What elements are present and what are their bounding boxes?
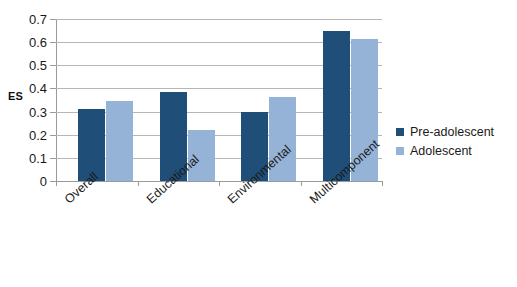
x-axis-tick bbox=[56, 181, 57, 186]
bar bbox=[106, 101, 133, 181]
legend-swatch-icon bbox=[396, 147, 404, 155]
bar-chart: ES 0.70.60.50.40.30.20.10 Pre-adolescent… bbox=[0, 0, 517, 287]
x-axis-tick bbox=[382, 181, 383, 186]
y-axis-tick-labels: 0.70.60.50.40.30.20.10 bbox=[0, 0, 47, 287]
legend-swatch-icon bbox=[396, 128, 404, 136]
y-axis-tick-label: 0.1 bbox=[29, 150, 47, 165]
y-axis-tick-label: 0.5 bbox=[29, 58, 47, 73]
y-axis-tick-label: 0.2 bbox=[29, 127, 47, 142]
x-axis-tick bbox=[301, 181, 302, 186]
bar-group bbox=[78, 19, 133, 181]
bar bbox=[323, 31, 350, 181]
y-axis-tick-label: 0.3 bbox=[29, 104, 47, 119]
y-axis-tick-label: 0.7 bbox=[29, 12, 47, 27]
x-axis-tick bbox=[219, 181, 220, 186]
y-axis-tick bbox=[50, 65, 56, 66]
y-axis-tick-label: 0.4 bbox=[29, 81, 47, 96]
y-axis-tick bbox=[50, 42, 56, 43]
y-axis-tick bbox=[50, 19, 56, 20]
y-axis-tick-label: 0 bbox=[40, 174, 47, 189]
y-axis-tick bbox=[50, 158, 56, 159]
legend-item-label: Adolescent bbox=[410, 144, 472, 158]
chart-title-cropped bbox=[36, 0, 336, 4]
y-axis-tick bbox=[50, 135, 56, 136]
y-axis-tick-label: 0.6 bbox=[29, 35, 47, 50]
chart-legend: Pre-adolescentAdolescent bbox=[396, 122, 511, 160]
plot-area bbox=[56, 19, 382, 181]
y-axis-tick bbox=[50, 112, 56, 113]
legend-item[interactable]: Adolescent bbox=[396, 141, 511, 160]
x-axis-tick bbox=[138, 181, 139, 186]
y-axis-tick bbox=[50, 88, 56, 89]
legend-item[interactable]: Pre-adolescent bbox=[396, 122, 511, 141]
legend-item-label: Pre-adolescent bbox=[410, 125, 494, 139]
